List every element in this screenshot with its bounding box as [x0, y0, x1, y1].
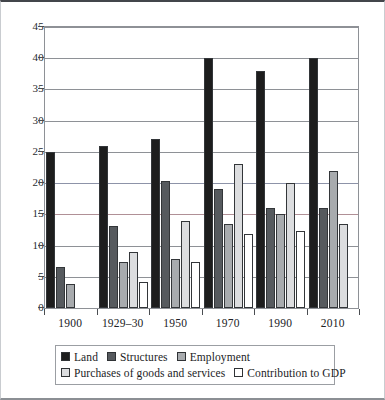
bar: [66, 284, 75, 308]
legend-swatch-icon: [61, 368, 70, 377]
bar: [109, 226, 118, 308]
legend-swatch-icon: [234, 368, 243, 377]
bar: [151, 139, 160, 308]
legend-label: Structures: [120, 351, 168, 363]
x-tick-mark: [254, 309, 255, 315]
bar: [266, 208, 275, 308]
bar-group: [46, 27, 96, 308]
bar: [256, 71, 265, 308]
x-tick-label: 2010: [307, 317, 360, 330]
bar: [244, 234, 253, 308]
bar: [276, 214, 285, 308]
x-tick-mark: [97, 309, 98, 315]
legend-label: Contribution to GDP: [247, 367, 345, 379]
x-tick-mark: [44, 309, 45, 315]
bar: [234, 164, 243, 308]
bar-group: [256, 27, 306, 308]
x-tick-label: 1990: [254, 317, 307, 330]
legend-label: Purchases of goods and services: [74, 367, 225, 379]
legend-label: Land: [74, 351, 98, 363]
bar-chart-figure: 051015202530354045 19001929–301950197019…: [0, 0, 385, 400]
legend-swatch-icon: [61, 352, 70, 361]
bar: [319, 208, 328, 308]
x-tick-label: 1900: [44, 317, 97, 330]
bar: [224, 224, 233, 308]
x-tick-mark: [307, 309, 308, 315]
legend-swatch-icon: [177, 352, 186, 361]
legend-label: Employment: [190, 351, 250, 363]
legend-item: Employment: [177, 351, 250, 363]
bar: [139, 282, 148, 308]
bar: [329, 171, 338, 308]
legend-item: Purchases of goods and services: [61, 367, 225, 379]
x-tick-label: 1929–30: [97, 317, 150, 330]
bar: [56, 267, 65, 308]
x-tick-mark: [202, 309, 203, 315]
x-tick-mark: [149, 309, 150, 315]
bar-group: [309, 27, 359, 308]
bar: [171, 259, 180, 308]
chart-legend: LandStructuresEmployment Purchases of go…: [55, 345, 335, 385]
bar: [204, 58, 213, 308]
legend-item: Contribution to GDP: [234, 367, 345, 379]
legend-row-1: LandStructuresEmployment: [61, 349, 329, 364]
legend-item: Structures: [107, 351, 168, 363]
bar: [191, 262, 200, 308]
bar-group: [99, 27, 149, 308]
bar: [119, 262, 128, 308]
bar: [296, 231, 305, 308]
bar: [214, 189, 223, 308]
bar: [161, 181, 170, 308]
x-tick-label: 1950: [149, 317, 202, 330]
bar: [181, 221, 190, 308]
bar: [339, 224, 348, 308]
legend-swatch-icon: [107, 352, 116, 361]
bar-group: [204, 27, 254, 308]
bar: [46, 152, 55, 308]
bar: [286, 183, 295, 308]
bar: [129, 252, 138, 308]
x-tick-label: 1970: [202, 317, 255, 330]
legend-item: Land: [61, 351, 98, 363]
legend-row-2: Purchases of goods and servicesContribut…: [61, 365, 329, 380]
bar-group: [151, 27, 201, 308]
bar: [309, 58, 318, 308]
plot-area: [44, 26, 359, 309]
x-tick-mark: [359, 309, 360, 315]
bar: [99, 146, 108, 308]
